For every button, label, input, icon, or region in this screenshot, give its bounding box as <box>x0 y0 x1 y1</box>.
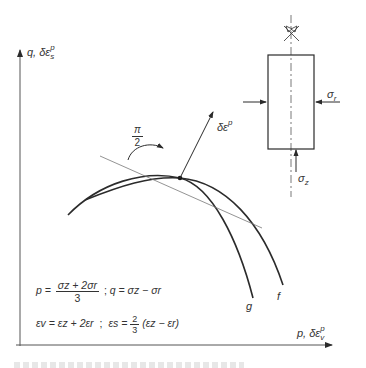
x-axis-label-sub: v <box>320 333 324 342</box>
formula-q: q = σz − σr <box>110 284 161 296</box>
normal-vector-label-main: δε <box>217 121 228 133</box>
y-axis-label-sub: s <box>50 52 54 61</box>
clipped-caption <box>14 362 244 368</box>
x-axis-label-sup: p <box>320 324 324 333</box>
y-axis-label: q, δεsp <box>27 43 55 61</box>
specimen <box>243 15 340 197</box>
plastic-strain-increment-vector <box>180 112 213 178</box>
tangent-line <box>100 156 262 228</box>
formula-ev: εv = εz + 2εr <box>36 317 94 329</box>
x-axis-label: p, δεvp <box>297 324 325 342</box>
curve-g-label: g <box>246 300 252 312</box>
y-axis-label-main: q, δε <box>27 46 50 58</box>
angle-denominator: 2 <box>132 137 143 149</box>
formula-es-rhs: (εz − εr) <box>142 317 179 329</box>
formula-p-denominator: 3 <box>56 292 99 304</box>
formula-line-1: p = σz + 2σr 3 ; q = σz − σr <box>36 279 161 304</box>
x-axis-label-main: p, δε <box>297 327 320 339</box>
axial-stress-main: σ <box>298 172 305 184</box>
yield-surface-diagram <box>0 0 366 368</box>
curve-f-label: f <box>277 290 280 302</box>
formula-es-fraction: 2 3 <box>130 314 139 335</box>
normal-vector-label-sup: p <box>228 118 232 127</box>
formula-es-denominator: 3 <box>130 325 139 335</box>
radial-stress-sub: r <box>334 94 337 103</box>
radial-stress-label: σr <box>327 88 336 103</box>
formula-separator-1: ; <box>104 284 107 296</box>
axial-stress-sub: z <box>305 178 309 187</box>
formula-p-numerator: σz + 2σr <box>56 279 99 292</box>
formula-line-2: εv = εz + 2εr ; εs = 2 3 (εz − εr) <box>36 314 179 335</box>
curve-f <box>85 178 283 285</box>
formula-p-lhs: p = <box>36 284 51 296</box>
axial-stress-label: σz <box>298 172 309 187</box>
angle-numerator: π <box>132 124 143 137</box>
angle-fraction: π 2 <box>132 124 143 149</box>
top-symbol <box>284 26 299 41</box>
y-axis-label-sup: p <box>50 43 54 52</box>
formula-es-lhs: εs = <box>108 317 127 329</box>
formula-es-numerator: 2 <box>130 314 139 325</box>
normal-vector-label: δεp <box>217 118 232 133</box>
angle-label: π 2 <box>132 124 143 149</box>
formula-p-fraction: σz + 2σr 3 <box>56 279 99 304</box>
formula-separator-2: ; <box>100 317 103 329</box>
radial-stress-main: σ <box>327 88 334 100</box>
